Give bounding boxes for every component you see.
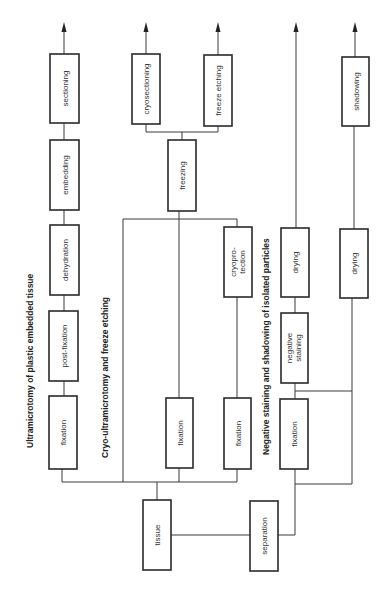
title-cryo-ultramicrotomy: Cryo-ultramicrotomy and freeze etching [100,297,110,458]
svg-text:fixation: fixation [290,421,299,446]
node-cryosectioning: cryosectioning [132,54,160,124]
node-embedding: embedding [50,140,79,210]
svg-text:drying: drying [291,252,300,274]
svg-text:negative: negative [285,332,294,363]
svg-text:cryopro-: cryopro- [229,247,238,277]
node-negative-staining: negative staining [281,313,308,383]
arrow-up-icon [294,22,299,32]
node-separation: separation [250,501,278,571]
svg-text:sectioning: sectioning [61,70,70,106]
node-freezing: freezing [168,140,196,211]
sample-preparation-flow-diagram: Ultramicrotomy of plastic embedded tissu… [0,0,385,592]
svg-text:shadowing: shadowing [352,72,361,110]
svg-text:drying: drying [350,253,359,275]
node-post-fixation: post-fixation [49,311,78,381]
node-shadowing: shadowing [342,57,369,126]
arrow-up-icon [353,22,358,32]
arrow-up-icon [216,22,221,32]
arrow-up-icon [62,22,67,32]
node-drying-shadow: drying [340,229,368,298]
svg-text:freeze etching: freeze etching [214,65,223,115]
svg-text:tection: tection [238,250,247,274]
node-cryoprotection: cryopro- tection [224,227,252,297]
svg-text:embedding: embedding [61,155,70,195]
node-dehydration: dehydration [50,225,79,295]
node-drying-negative: drying [281,228,309,297]
svg-text:separation: separation [260,517,269,554]
node-plastic-fixation: fixation [49,396,77,469]
node-sectioning: sectioning [50,54,79,123]
svg-text:cryosectioning: cryosectioning [142,63,151,114]
title-negative-staining: Negative staining and shadowing of isola… [261,238,271,455]
svg-text:fixation: fixation [59,420,68,445]
svg-text:freezing: freezing [178,161,187,189]
svg-text:fixation: fixation [176,420,185,445]
svg-text:tissue: tissue [153,524,162,545]
svg-text:post-fixation: post-fixation [60,324,69,367]
arrow-up-icon [144,22,149,32]
node-negative-fixation: fixation [280,399,308,469]
node-cryo-fixation-b: fixation [224,398,251,469]
svg-text:fixation: fixation [234,421,243,446]
title-plastic-embedding: Ultramicrotomy of plastic embedded tissu… [25,273,35,448]
node-cryo-fixation-a: fixation [166,398,193,468]
svg-text:staining: staining [294,334,303,362]
node-freeze-etching: freeze etching [204,55,232,126]
output-arrows [62,22,358,32]
svg-text:dehydration: dehydration [61,239,70,281]
node-tissue: tissue [143,500,171,570]
